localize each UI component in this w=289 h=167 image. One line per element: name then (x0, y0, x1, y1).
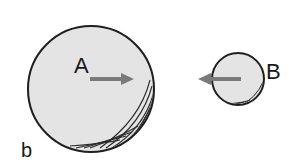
panel-label: b (21, 140, 32, 160)
circle-a (28, 26, 154, 152)
arrow-b-head-icon (198, 73, 211, 85)
label-a: A (74, 55, 89, 77)
diagram-canvas (0, 0, 289, 167)
body-b (198, 53, 264, 106)
label-b: B (266, 61, 281, 83)
body-a (28, 26, 154, 152)
